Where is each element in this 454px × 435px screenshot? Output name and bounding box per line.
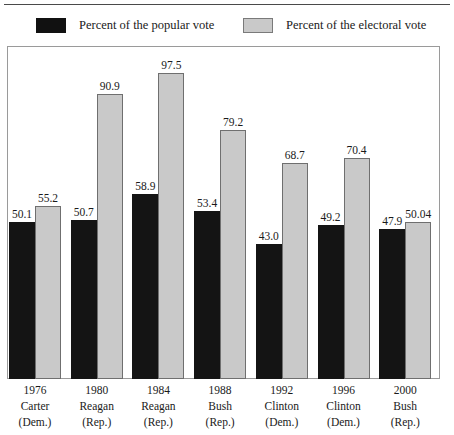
legend-swatch-popular-icon <box>36 18 66 33</box>
x-axis-label-year: 1984 <box>124 382 192 398</box>
plot-area: 50.150.758.953.443.049.247.955.290.997.5… <box>7 46 440 379</box>
x-axis-label-name: Reagan <box>63 398 131 414</box>
bar-popular-2000 <box>379 229 405 379</box>
x-axis-label-party: (Rep.) <box>371 414 439 430</box>
x-axis-label-party: (Rep.) <box>124 414 192 430</box>
bar-value-label: 97.5 <box>151 59 191 71</box>
bar-popular-1976 <box>9 222 35 379</box>
bar-electoral-1976 <box>35 206 61 379</box>
bar-electoral-1988 <box>220 130 246 379</box>
legend-item-electoral-vote: Percent of the electoral vote <box>243 14 426 36</box>
bar-popular-1984 <box>132 194 158 379</box>
x-axis-label-name: Reagan <box>124 398 192 414</box>
bar-popular-1996 <box>318 225 344 379</box>
bar-value-label: 55.2 <box>28 192 68 204</box>
x-axis-label-2000: 2000Bush(Rep.) <box>371 382 439 430</box>
bar-popular-1988 <box>194 211 220 379</box>
x-axis-category-labels: 1976Carter(Dem.)1980Reagan(Rep.)1984Reag… <box>7 382 440 434</box>
x-axis-label-name: Carter <box>1 398 69 414</box>
bar-value-label: 68.7 <box>275 149 315 161</box>
x-axis-label-year: 1980 <box>63 382 131 398</box>
bar-value-label: 70.4 <box>337 144 377 156</box>
bar-electoral-1992 <box>282 163 308 379</box>
legend-swatch-electoral-icon <box>243 18 273 33</box>
x-axis-label-year: 2000 <box>371 382 439 398</box>
chart-legend: Percent of the popular vote Percent of t… <box>0 14 454 38</box>
bar-popular-1980 <box>71 220 97 379</box>
x-axis-label-1980: 1980Reagan(Rep.) <box>63 382 131 430</box>
top-divider-rule <box>4 4 450 5</box>
bar-value-label: 50.04 <box>398 208 438 220</box>
x-axis-label-party: (Dem.) <box>248 414 316 430</box>
bar-electoral-1996 <box>344 158 370 379</box>
bar-popular-1992 <box>256 244 282 379</box>
x-axis-label-1992: 1992Clinton(Dem.) <box>248 382 316 430</box>
x-axis-label-year: 1996 <box>310 382 378 398</box>
x-axis-label-party: (Dem.) <box>310 414 378 430</box>
bar-electoral-1980 <box>97 94 123 379</box>
bar-value-label: 90.9 <box>90 80 130 92</box>
legend-label-popular: Percent of the popular vote <box>79 18 214 33</box>
x-axis-label-year: 1976 <box>1 382 69 398</box>
bar-value-label: 79.2 <box>213 116 253 128</box>
x-axis-label-party: (Rep.) <box>63 414 131 430</box>
x-axis-label-1988: 1988Bush(Rep.) <box>186 382 254 430</box>
x-axis-label-name: Bush <box>371 398 439 414</box>
x-axis-label-name: Bush <box>186 398 254 414</box>
x-axis-label-year: 1992 <box>248 382 316 398</box>
bar-electoral-1984 <box>158 73 184 379</box>
x-axis-label-party: (Rep.) <box>186 414 254 430</box>
x-axis-label-1996: 1996Clinton(Dem.) <box>310 382 378 430</box>
x-axis-label-party: (Dem.) <box>1 414 69 430</box>
bar-electoral-2000 <box>405 222 431 379</box>
x-axis-label-name: Clinton <box>248 398 316 414</box>
x-axis-label-year: 1988 <box>186 382 254 398</box>
legend-label-electoral: Percent of the electoral vote <box>286 18 426 33</box>
x-axis-label-name: Clinton <box>310 398 378 414</box>
x-axis-label-1976: 1976Carter(Dem.) <box>1 382 69 430</box>
legend-item-popular-vote: Percent of the popular vote <box>36 14 214 36</box>
x-axis-label-1984: 1984Reagan(Rep.) <box>124 382 192 430</box>
